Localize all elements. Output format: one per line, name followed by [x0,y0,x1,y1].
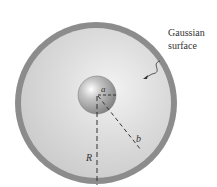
gaussian-label-line1: Gaussian [168,27,205,38]
label-r: R [85,152,92,163]
label-b: b [136,133,141,144]
gaussian-label-line2: surface [168,40,197,51]
gaussian-sphere-diagram: Gaussian surface a b R [0,0,217,187]
label-a: a [101,84,106,94]
